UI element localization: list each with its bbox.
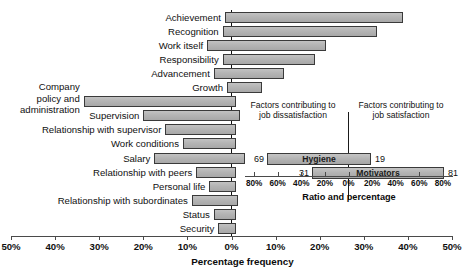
bar-row: Work itself: [0, 39, 467, 53]
bar: [192, 195, 238, 206]
x-axis-tick-label: 40%: [45, 241, 64, 252]
x-axis-tick: [143, 236, 144, 240]
bar: [207, 40, 326, 51]
x-axis-tick: [11, 236, 12, 240]
inset-axis-tick: [325, 172, 326, 177]
x-axis-tick-label: 10%: [178, 241, 197, 252]
x-axis-tick: [232, 236, 233, 240]
bar: [154, 153, 244, 164]
bar: [225, 12, 404, 23]
inset-axis-tick: [419, 172, 420, 177]
x-axis-title-label: Percentage frequency: [173, 256, 293, 267]
bar-row: Responsibility: [0, 53, 467, 67]
bar-row: Advancement: [0, 67, 467, 81]
inset-ratio-chart: Factors contributing to job dissatisfact…: [243, 100, 465, 208]
bar: [84, 96, 236, 107]
herzberg-two-factor-chart: AchievementRecognitionWork itselfRespons…: [0, 0, 467, 280]
x-axis-tick-label: 50%: [1, 241, 20, 252]
bar-label: Recognition: [168, 25, 219, 38]
bar-row: Security: [0, 222, 467, 236]
inset-caption-left: Factors contributing to job dissatisfact…: [247, 100, 339, 121]
inset-bar-row: 69Hygiene19: [243, 153, 465, 166]
bar: [223, 26, 377, 37]
bar: [165, 124, 236, 135]
bar-label: Growth: [192, 81, 223, 94]
bar: [143, 110, 240, 121]
x-axis-tick: [99, 236, 100, 240]
x-axis-tick-label: 30%: [354, 241, 373, 252]
inset-axis-tick-label: 20%: [317, 179, 333, 188]
inset-axis-tick-label: 20%: [364, 179, 380, 188]
inset-axis-tick: [396, 172, 397, 177]
bar-label: Responsibility: [159, 53, 218, 66]
bar-label: Relationship with peers: [93, 166, 192, 179]
bar-row: Achievement: [0, 11, 467, 25]
inset-axis-tick-label: 80%: [246, 179, 262, 188]
bar-row: Status: [0, 208, 467, 222]
x-axis-tick-label: 40%: [398, 241, 417, 252]
inset-axis-title: Ratio and percentage: [243, 192, 455, 202]
x-axis-tick: [187, 236, 188, 240]
bar: [209, 181, 235, 192]
x-axis-tick: [408, 236, 409, 240]
x-axis-tick: [452, 236, 453, 240]
x-axis-tick-label: 10%: [266, 241, 285, 252]
inset-axis-tick: [443, 172, 444, 177]
bar: [196, 167, 236, 178]
bar-label: Security: [180, 222, 215, 235]
bar: [214, 68, 285, 79]
bar-label: Salary: [123, 152, 150, 165]
inset-bar: Motivators: [312, 167, 444, 179]
bar-label: Supervision: [89, 109, 139, 122]
x-axis-tick: [276, 236, 277, 240]
x-axis-tick-label: 0%: [225, 241, 239, 252]
inset-value-right: 81: [448, 167, 458, 179]
bar: [183, 138, 236, 149]
x-axis-tick: [320, 236, 321, 240]
inset-value-right: 19: [375, 153, 385, 165]
inset-axis-tick: [372, 172, 373, 177]
inset-caption-right: Factors contributing to job satisfaction: [355, 100, 447, 121]
inset-axis-tick-label: 80%: [435, 179, 451, 188]
bar: [218, 223, 236, 234]
bar-label: Relationship with subordinates: [58, 194, 188, 207]
x-axis-tick-label: 20%: [310, 241, 329, 252]
inset-axis-tick: [301, 172, 302, 177]
inset-axis-tick: [278, 172, 279, 177]
inset-axis-tick: [349, 172, 350, 177]
inset-axis-tick-label: 60%: [411, 179, 427, 188]
x-axis-title: Percentage frequency: [0, 256, 467, 267]
bar-label: Advancement: [151, 67, 210, 80]
bar: [227, 82, 262, 93]
bar: [223, 54, 316, 65]
inset-value-left: 69: [250, 153, 264, 165]
bar-label: Achievement: [165, 11, 220, 24]
bar-label: Personal life: [153, 180, 206, 193]
x-axis-tick: [364, 236, 365, 240]
inset-bar: Hygiene: [267, 153, 371, 165]
x-axis-tick-label: 50%: [442, 241, 461, 252]
inset-axis-tick-label: 60%: [269, 179, 285, 188]
inset-axis-tick-label: 40%: [293, 179, 309, 188]
bar-label: Work conditions: [111, 137, 179, 150]
bar-label: Relationship with supervisor: [42, 123, 161, 136]
x-axis-tick-label: 30%: [90, 241, 109, 252]
inset-axis-tick-label: 40%: [387, 179, 403, 188]
bar-label: Work itself: [159, 39, 204, 52]
x-axis-tick-label: 20%: [134, 241, 153, 252]
bar-label: Status: [183, 208, 210, 221]
inset-axis-tick: [254, 172, 255, 177]
bar: [214, 209, 236, 220]
x-axis-tick: [55, 236, 56, 240]
bar-row: Recognition: [0, 25, 467, 39]
inset-axis-tick-label: 0%: [343, 179, 355, 188]
